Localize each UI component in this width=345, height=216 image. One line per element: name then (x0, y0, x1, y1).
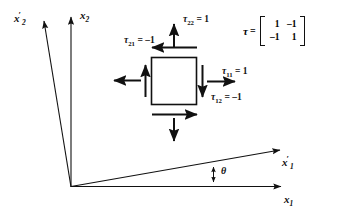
axis-label-x1: x1 (284, 194, 293, 208)
axis-label-x2: x2 (80, 10, 89, 24)
tau-equals-12: = (224, 92, 229, 102)
tau-value-11: 1 (243, 66, 248, 76)
tau-value-22: 1 (204, 14, 209, 24)
theta-label: θ (221, 166, 226, 176)
axis-label-x2-sub: 2 (86, 15, 90, 24)
stress-element-square (152, 58, 197, 105)
prime-mark-x2: ′ (19, 10, 22, 20)
tau-value-12: –1 (232, 92, 242, 102)
axis-label-x2-prime-sub: 2 (22, 18, 26, 27)
matrix-bracket-left (260, 16, 265, 46)
tau-subscript-12: 12 (215, 97, 222, 104)
stress-label-tau21: τ21 = –1 (124, 36, 155, 48)
axis-x1-prime-line (71, 150, 280, 187)
tau-subscript-11: 11 (226, 71, 232, 78)
tau-matrix-symbol: τ (243, 25, 248, 37)
stress-element-figure: x′2 x2 x′1 x1 θ τ22 = 1 τ21 = –1 τ11 = 1… (0, 0, 345, 216)
tau-subscript-22: 22 (187, 19, 194, 26)
tau-equals-11: = (235, 66, 240, 76)
matrix-bracket-right (300, 16, 305, 46)
matrix-cell-r1c1: 1 (281, 31, 298, 44)
tau-subscript-21: 21 (128, 40, 135, 47)
tau-matrix: τ = 1 –1 –1 1 (243, 16, 305, 46)
axis-label-x1-prime-sub: 1 (290, 162, 294, 171)
stress-label-tau12: τ12 = –1 (211, 93, 242, 105)
tau-matrix-equals: = (250, 25, 256, 36)
matrix-cell-r1c0: –1 (267, 31, 281, 44)
axis-label-x1-prime: x′1 (282, 157, 294, 171)
stress-label-tau11: τ11 = 1 (222, 67, 248, 79)
axis-label-x2-prime: x′2 (14, 13, 26, 27)
tau-value-21: –1 (145, 35, 155, 45)
matrix-cell-r0c1: –1 (281, 18, 298, 31)
tau-equals-22: = (196, 14, 201, 24)
axis-x2-prime-line (44, 21, 71, 187)
prime-mark-x1: ′ (287, 154, 290, 164)
stress-label-tau22: τ22 = 1 (183, 15, 209, 27)
matrix-cell-r0c0: 1 (267, 18, 281, 31)
tau-equals-21: = (137, 35, 142, 45)
axis-label-x1-sub: 1 (290, 199, 294, 208)
matrix-values-grid: 1 –1 –1 1 (265, 16, 300, 46)
